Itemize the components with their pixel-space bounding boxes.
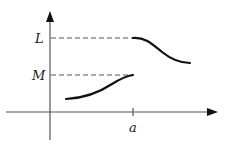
diagram: L M a [0, 0, 226, 149]
label-a: a [129, 120, 137, 135]
label-M: M [31, 68, 46, 83]
x-axis [6, 108, 218, 116]
label-L: L [34, 31, 44, 46]
curve-right-of-a [133, 38, 190, 63]
y-axis-arrow-icon [46, 11, 54, 22]
curve-left-of-a [66, 75, 133, 99]
x-axis-arrow-icon [207, 108, 218, 116]
